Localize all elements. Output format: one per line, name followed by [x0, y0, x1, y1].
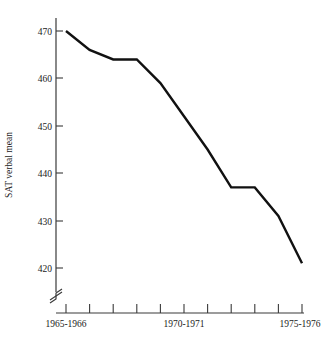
y-tick-marks — [56, 31, 63, 268]
x-tick-labels: 1965-1966 1970-1971 1975-1976 — [45, 319, 320, 329]
chart-svg: 470 460 450 440 430 420 1965-1966 1970-1… — [0, 0, 329, 345]
y-tick-label: 420 — [38, 264, 53, 274]
y-tick-labels: 470 460 450 440 430 420 — [38, 27, 53, 274]
x-tick-marks — [66, 304, 302, 313]
y-axis-title: SAT verbal mean — [4, 132, 14, 198]
x-tick-label-end: 1975-1976 — [279, 319, 320, 329]
y-tick-label: 450 — [38, 122, 53, 132]
x-tick-label-middle: 1970-1971 — [163, 319, 204, 329]
y-tick-label: 460 — [38, 74, 53, 84]
x-tick-label-start: 1965-1966 — [45, 319, 86, 329]
data-series-line — [66, 31, 302, 263]
sat-verbal-mean-line-chart: 470 460 450 440 430 420 1965-1966 1970-1… — [0, 0, 329, 345]
y-tick-label: 430 — [38, 217, 53, 227]
y-tick-label: 470 — [38, 27, 53, 37]
y-tick-label: 440 — [38, 169, 53, 179]
